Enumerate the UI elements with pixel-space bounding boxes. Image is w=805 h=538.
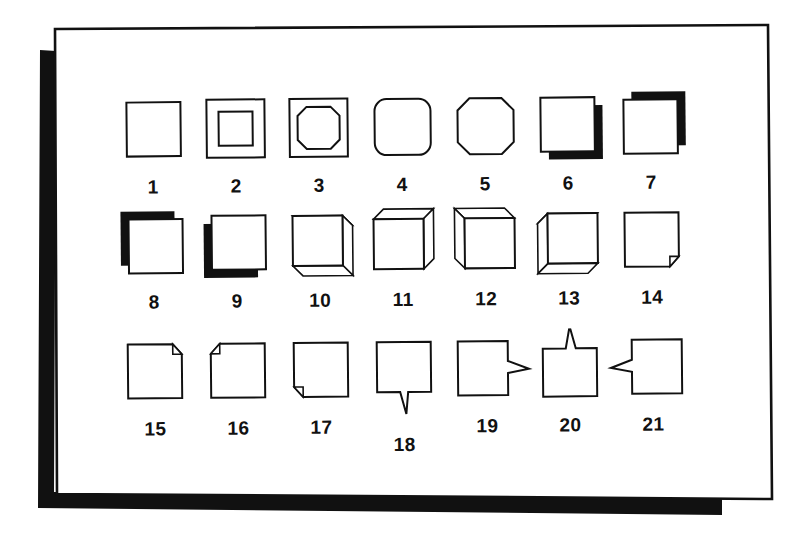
shape-label-8: 8 <box>106 291 202 314</box>
shape-cell-21: 21 <box>605 327 702 446</box>
shape-label-6: 6 <box>520 172 616 195</box>
shape-label-4: 4 <box>354 174 450 197</box>
shape-label-9: 9 <box>189 290 285 313</box>
shape-label-7: 7 <box>603 171 699 194</box>
shape-label-17: 17 <box>273 416 369 439</box>
shape-label-12: 12 <box>438 288 534 311</box>
shape-label-14: 14 <box>604 286 700 309</box>
shape-label-18: 18 <box>357 434 453 457</box>
shadow-square-up-right <box>602 85 699 172</box>
shape-grid: 1 2 3 4 <box>0 0 805 538</box>
shape-label-21: 21 <box>605 413 701 436</box>
figure-canvas: 1 2 3 4 <box>0 0 805 538</box>
shape-label-20: 20 <box>522 414 618 437</box>
callout-tail-left <box>605 327 702 414</box>
shape-cell-7: 7 <box>602 85 699 204</box>
shape-label-10: 10 <box>272 289 368 312</box>
shape-label-3: 3 <box>271 174 367 197</box>
shape-label-16: 16 <box>190 417 286 440</box>
shape-label-13: 13 <box>521 287 617 310</box>
shape-label-19: 19 <box>439 415 535 438</box>
shape-cell-14: 14 <box>603 200 700 319</box>
shape-label-11: 11 <box>355 289 451 312</box>
shape-label-5: 5 <box>437 173 533 196</box>
shape-label-1: 1 <box>105 176 201 199</box>
shape-label-2: 2 <box>188 175 284 198</box>
folded-corner-bottom-right <box>603 200 700 287</box>
shape-label-15: 15 <box>107 418 203 441</box>
